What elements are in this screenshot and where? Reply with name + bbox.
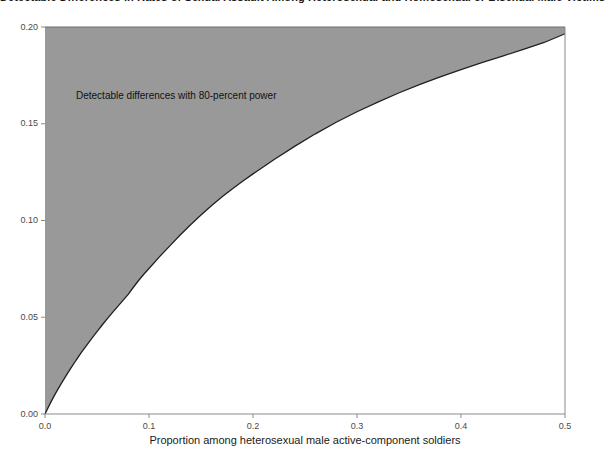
ytick-label-0: 0.20 [4, 22, 38, 32]
xtick-label-5: 0.5 [545, 421, 585, 431]
ytick-label-2: 0.10 [4, 215, 38, 225]
x-axis-title: Proportion among heterosexual male activ… [45, 434, 565, 446]
xtick-label-2: 0.2 [233, 421, 273, 431]
xtick-label-0: 0.0 [25, 421, 65, 431]
curve-annotation-label: Detectable differences with 80-percent p… [76, 90, 276, 101]
shaded-area [45, 27, 565, 414]
xtick-label-4: 0.4 [441, 421, 481, 431]
xtick-label-1: 0.1 [129, 421, 169, 431]
ytick-label-4: 0.00 [4, 409, 38, 419]
ytick-label-3: 0.05 [4, 312, 38, 322]
xtick-label-3: 0.3 [337, 421, 377, 431]
ytick-label-1: 0.15 [4, 118, 38, 128]
